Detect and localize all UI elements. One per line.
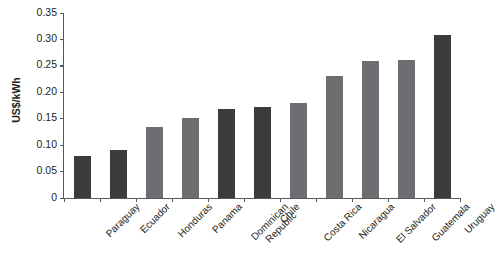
bar [146,127,163,198]
x-axis-label: Paraguay [104,201,142,239]
y-tick-label: 0.05 [37,164,57,176]
y-tick-label: 0.35 [37,6,57,18]
y-tick-mark [60,92,64,93]
y-tick-label: 0.15 [37,111,57,123]
bar [74,156,91,198]
x-axis-line [63,198,461,199]
x-axis-label: Ecuador [138,201,172,235]
bar [398,60,415,198]
y-tick-label: 0.25 [37,58,57,70]
y-tick-label: 0.30 [37,32,57,44]
bar [182,118,199,198]
x-axis-label: Honduras [176,201,215,240]
y-tick-label: 0.10 [37,138,57,150]
y-tick-mark [60,39,64,40]
bar [326,76,343,198]
bar [218,109,235,198]
y-axis-title: US$/kWh [10,50,22,150]
bar [290,103,307,198]
y-tick-mark [60,118,64,119]
x-axis-label: Costa Rica [321,201,364,244]
bar [110,150,127,198]
y-tick-mark [60,13,64,14]
bar [434,35,451,198]
bar [362,61,379,198]
x-tick-mark [460,198,461,202]
y-tick-label: 0 [51,191,57,203]
y-tick-mark [60,65,64,66]
y-tick-mark [60,171,64,172]
y-tick-label: 0.20 [37,85,57,97]
plot-area: 0.350.300.250.200.150.100.050 [64,13,460,198]
bar [254,107,271,198]
y-tick-mark [60,145,64,146]
x-axis-labels: ParaguayEcuadorHondurasPanamaDominicanRe… [64,201,460,265]
x-axis-label: Panama [210,201,244,235]
